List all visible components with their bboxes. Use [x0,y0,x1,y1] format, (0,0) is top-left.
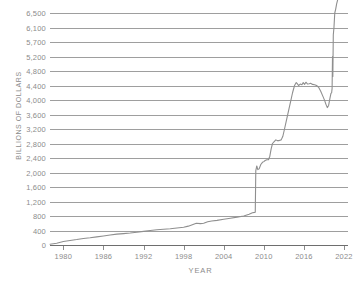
y-axis-tick-label: 3,200 [26,125,46,134]
x-axis-tick [184,246,185,250]
x-axis-tick-label: 2010 [255,252,273,261]
x-axis-tick [103,246,104,250]
x-axis-tick [224,246,225,250]
y-axis-tick-label: 0 [42,241,46,250]
x-axis-tick [144,246,145,250]
y-axis-tick-label: 5,200 [26,52,46,61]
y-axis-tick-label: 800 [33,212,46,221]
x-axis-tick [264,246,265,250]
x-axis-tick-label: 1998 [175,252,193,261]
x-axis-tick-label: 2022 [335,252,353,261]
x-axis-tick-label: 1992 [135,252,153,261]
x-axis-tick-label: 2016 [295,252,313,261]
y-axis-tick-label: 1,600 [26,183,46,192]
y-axis-tick-label: 2,000 [26,168,46,177]
y-axis-tick-label: 3,600 [26,110,46,119]
x-axis-title: YEAR [146,266,212,275]
y-axis-tick-label: 4,400 [26,81,46,90]
x-axis-tick-label: 1986 [95,252,113,261]
chart-container: BILLIONS OF DOLLARS 04008001,2001,6002,0… [0,0,359,285]
y-axis-tick-label: 4,000 [26,96,46,105]
y-axis-tick-label: 2,400 [26,154,46,163]
y-axis-title: BILLIONS OF DOLLARS [15,46,22,186]
y-axis-tick-label: 400 [33,226,46,235]
y-axis-tick-label: 6,500 [26,9,46,18]
plot-area: 04008001,2001,6002,0002,4002,8003,2003,6… [50,13,348,245]
y-axis-tick-label: 1,200 [26,197,46,206]
data-series-svg [50,13,348,245]
y-axis-tick-label: 2,800 [26,139,46,148]
data-line [50,0,347,244]
x-axis-title-wrap: YEAR [0,266,359,275]
x-axis-tick [304,246,305,250]
x-axis-tick [63,246,64,250]
y-axis-tick-label: 6,100 [26,23,46,32]
x-axis-tick-label: 1980 [55,252,73,261]
x-axis-tick-label: 2004 [215,252,233,261]
y-axis-tick-label: 5,700 [26,38,46,47]
x-axis-tick [344,246,345,250]
y-axis-tick-label: 4,800 [26,67,46,76]
